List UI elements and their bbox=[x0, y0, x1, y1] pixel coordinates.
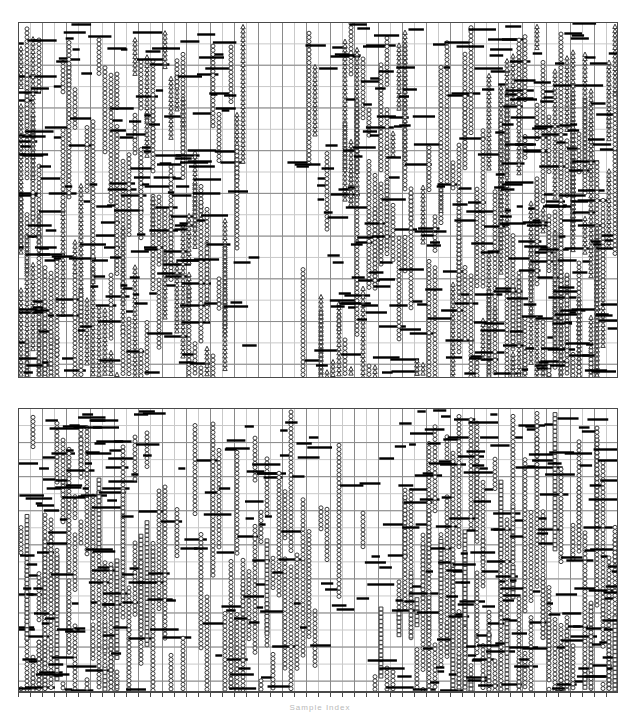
x-axis-label: Sample Index bbox=[0, 703, 640, 712]
lower-panel bbox=[18, 408, 618, 692]
upper-panel-canvas bbox=[18, 22, 618, 378]
chart-figure: Sample Index bbox=[0, 0, 640, 716]
upper-panel bbox=[18, 22, 618, 378]
bottom-axis bbox=[18, 692, 618, 700]
lower-panel-canvas bbox=[18, 408, 618, 692]
